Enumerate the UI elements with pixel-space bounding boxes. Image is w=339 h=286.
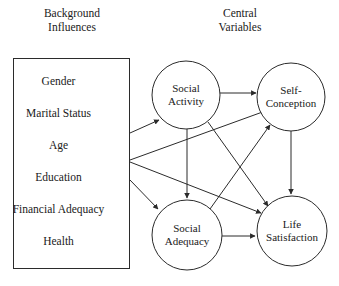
- node-circle-social-adequacy: [152, 200, 222, 270]
- diagram-canvas: Background Influences Central Variables: [0, 0, 339, 286]
- edge-social-activity-to-life-satisfaction: [208, 122, 268, 206]
- bg-item-gender: Gender: [0, 75, 117, 88]
- node-circle-social-activity: [152, 61, 220, 129]
- node-circle-self-conception: [257, 63, 325, 131]
- edge-background-to-social-activity: [130, 120, 159, 133]
- edge-background-to-social-adequacy: [130, 180, 158, 209]
- bg-item-health: Health: [0, 235, 117, 248]
- bg-item-education: Education: [0, 171, 117, 184]
- bg-item-marital-status: Marital Status: [0, 107, 117, 120]
- bg-item-financial-adequacy: Financial Adequacy: [0, 203, 117, 216]
- bg-item-age: Age: [0, 139, 117, 152]
- node-circle-life-satisfaction: [257, 196, 327, 266]
